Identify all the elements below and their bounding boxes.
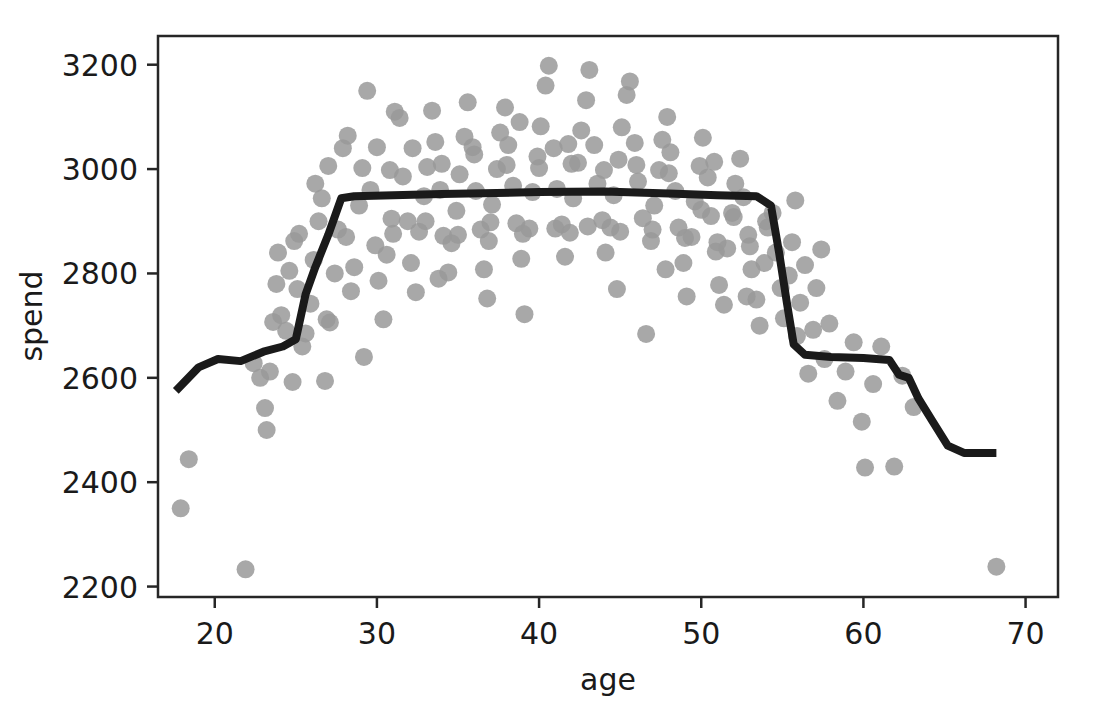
scatter-point [256,399,274,417]
scatter-point [498,156,516,174]
scatter-point [426,133,444,151]
scatter-point [353,159,371,177]
scatter-point [674,254,692,272]
x-tick-label: 30 [358,616,396,651]
y-axis-title: spend [14,270,49,361]
scatter-point [637,325,655,343]
scatter-point [499,136,517,154]
scatter-point [657,260,675,278]
scatter-point [339,127,357,145]
scatter-point [284,373,302,391]
scatter-point [451,165,469,183]
scatter-point [530,159,548,177]
scatter-point [694,129,712,147]
scatter-point [608,280,626,298]
y-tick-label: 2600 [62,361,138,396]
scatter-point [370,272,388,290]
scatter-point [699,168,717,186]
scatter-point [807,279,825,297]
scatter-point [511,113,529,131]
scatter-point [449,226,467,244]
scatter-point [402,254,420,272]
scatter-point [447,202,465,220]
y-tick-label: 3000 [62,152,138,187]
scatter-point [391,109,409,127]
scatter-point [515,305,533,323]
scatter-point [280,262,298,280]
scatter-point [342,282,360,300]
scatter-point [310,212,328,230]
scatter-point [251,369,269,387]
scatter-point [258,421,276,439]
scatter-point [546,220,564,238]
scatter-point [368,138,386,156]
x-tick-label: 70 [1006,616,1044,651]
scatter-point [345,258,363,276]
scatter-point [374,310,392,328]
scatter-point [355,348,373,366]
scatter-point [741,237,759,255]
scatter-point [796,256,814,274]
scatter-point [514,225,532,243]
scatter-point [783,233,801,251]
x-tick-label: 40 [520,616,558,651]
scatter-point [987,558,1005,576]
scatter-point [751,317,769,335]
scatter-point [627,156,645,174]
y-tick-label: 2200 [62,570,138,605]
x-axis-title: age [580,662,636,697]
scatter-point [358,82,376,100]
scatter-point [290,225,308,243]
x-tick-label: 20 [196,616,234,651]
scatter-point [626,134,644,152]
scatter-point [579,217,597,235]
plot-background [158,36,1058,597]
scatter-point [820,315,838,333]
scatter-point [692,201,710,219]
scatter-point [316,372,334,390]
scatter-point [577,91,595,109]
scatter-point [407,283,425,301]
scatter-point [658,108,676,126]
scatter-point [731,150,749,168]
scatter-point [269,244,287,262]
scatter-point [321,314,339,332]
scatter-point [725,208,743,226]
scatter-point [384,225,402,243]
scatter-point [799,365,817,383]
scatter-point [459,93,477,111]
scatter-point [710,276,728,294]
scatter-point [483,196,501,214]
scatter-point [465,145,483,163]
x-tick-label: 50 [682,616,720,651]
scatter-point [610,151,628,169]
scatter-point [512,250,530,268]
y-tick-label: 2800 [62,256,138,291]
y-tick-label: 3200 [62,48,138,83]
scatter-point [237,560,255,578]
scatter-point [644,221,662,239]
scatter-point [661,143,679,161]
scatter-point [708,233,726,251]
scatter-point [611,223,629,241]
scatter-plot-svg: 203040506070220024002600280030003200 age… [0,0,1098,726]
scatter-point [572,121,590,139]
scatter-point [475,260,493,278]
scatter-point [885,458,903,476]
scatter-point [532,117,550,135]
scatter-point [678,287,696,305]
scatter-point [629,173,647,191]
scatter-point [337,228,355,246]
scatter-point [559,135,577,153]
scatter-point [845,333,863,351]
scatter-point [676,229,694,247]
scatter-point [433,155,451,173]
scatter-point [417,212,435,230]
scatter-point [180,450,198,468]
scatter-point [272,306,290,324]
scatter-point [597,244,615,262]
x-tick-label: 60 [844,616,882,651]
scatter-point [306,175,324,193]
figure-canvas: 203040506070220024002600280030003200 age… [0,0,1098,726]
scatter-point [864,375,882,393]
